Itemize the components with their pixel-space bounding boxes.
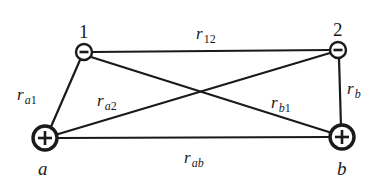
- node-label-a: a: [38, 159, 48, 178]
- edge-label-ra2: ra2: [97, 92, 117, 109]
- edge-a-1: [50, 60, 80, 129]
- node-2-negative-charge: [330, 42, 346, 58]
- edge-label-r12: r12: [196, 25, 216, 42]
- r-symbol: r: [347, 79, 354, 98]
- r-symbol: r: [17, 85, 24, 104]
- subscript: ab: [192, 156, 204, 170]
- r-symbol: r: [97, 91, 104, 110]
- edge-label-rab: rab: [184, 149, 204, 166]
- edge-label-rb1: rb1: [271, 94, 291, 111]
- r-symbol: r: [184, 148, 191, 167]
- subscript: a2: [105, 99, 117, 113]
- node-label-2: 2: [333, 20, 343, 39]
- r-symbol: r: [196, 24, 203, 43]
- edge-label-rb: rb: [347, 80, 361, 97]
- edge-1-2: [92, 50, 330, 52]
- edge-a-b: [58, 137, 330, 138]
- node-1-negative-charge: [76, 44, 92, 60]
- r-symbol: r: [271, 93, 278, 112]
- subscript: b1: [279, 101, 291, 115]
- edge-label-ra1: ra1: [17, 86, 37, 103]
- node-label-b: b: [337, 159, 347, 178]
- node-a-positive-charge: [33, 126, 57, 150]
- node-label-1: 1: [79, 22, 89, 41]
- subscript: b: [355, 87, 361, 101]
- edge-b-1: [91, 57, 332, 133]
- node-b-positive-charge: [330, 125, 354, 149]
- edge-b-2: [339, 58, 341, 127]
- subscript: 12: [204, 32, 216, 46]
- subscript: a1: [25, 93, 37, 107]
